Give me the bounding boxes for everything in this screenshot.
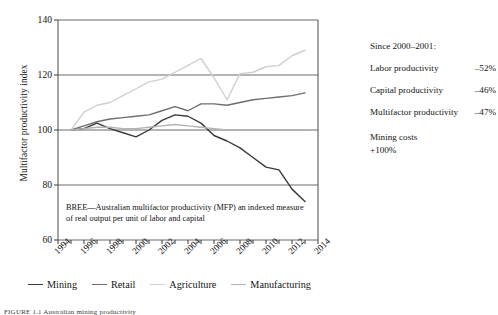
legend-label: Retail bbox=[111, 279, 135, 290]
side-stat-value: –52% bbox=[475, 64, 496, 73]
side-panel-title: Since 2000–2001: bbox=[370, 42, 496, 51]
figure-caption: FIGURE 1.1 Australian mining productivit… bbox=[4, 308, 136, 315]
legend-swatch-retail bbox=[92, 284, 107, 285]
figure: Multifactor productivity index 140 120 1… bbox=[0, 0, 498, 315]
side-annotations: Since 2000–2001: Labor productivity–52%C… bbox=[370, 42, 496, 160]
series-line-agriculture bbox=[71, 50, 305, 130]
legend-swatch-mining bbox=[28, 284, 43, 285]
side-stat-label: Capital productivity bbox=[370, 86, 448, 95]
side-stat-row: Labor productivity–52% bbox=[370, 64, 496, 73]
legend-item-agriculture[interactable]: Agriculture bbox=[150, 279, 216, 290]
legend-item-mining[interactable]: Mining bbox=[28, 279, 77, 290]
legend-label: Mining bbox=[47, 279, 77, 290]
side-stat-label: Multifactor productivity bbox=[370, 108, 463, 117]
legend-swatch-manufacturing bbox=[231, 284, 246, 285]
side-stat-row: Capital productivity–46% bbox=[370, 86, 496, 95]
legend-swatch-agriculture bbox=[150, 284, 165, 285]
chart-area: Multifactor productivity index 140 120 1… bbox=[0, 0, 340, 300]
side-stat-value: –47% bbox=[475, 108, 496, 117]
legend-label: Agriculture bbox=[169, 279, 216, 290]
legend-label: Manufacturing bbox=[250, 279, 311, 290]
chart-legend: MiningRetailAgricultureManufacturing bbox=[28, 276, 324, 292]
side-stat-value: –46% bbox=[475, 86, 496, 95]
legend-item-retail[interactable]: Retail bbox=[92, 279, 135, 290]
legend-item-manufacturing[interactable]: Manufacturing bbox=[231, 279, 311, 290]
series-line-manufacturing bbox=[71, 125, 305, 131]
chart-annotation: BREE—Australian multifactor productivity… bbox=[66, 202, 312, 224]
side-stat-label: Labor productivity bbox=[370, 64, 443, 73]
side-note-line: +100% bbox=[370, 146, 496, 155]
side-note-line: Mining costs bbox=[370, 133, 496, 142]
series-line-retail bbox=[71, 93, 305, 130]
side-stat-row: Multifactor productivity–47% bbox=[370, 108, 496, 117]
